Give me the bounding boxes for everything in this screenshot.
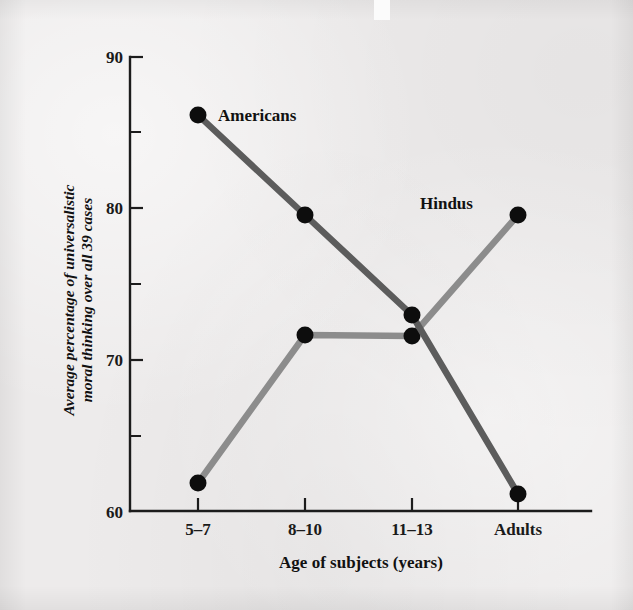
americans-point-8-10 bbox=[297, 207, 314, 224]
y-tick-label-70: 70 bbox=[106, 351, 123, 370]
hindus-point-8-10 bbox=[297, 327, 314, 344]
americans-point-11-13 bbox=[404, 307, 421, 324]
hindus-point-5-7 bbox=[190, 475, 207, 492]
figure-page: Average percentage of universalistic mor… bbox=[0, 0, 633, 610]
x-axis-title: Age of subjects (years) bbox=[279, 553, 443, 572]
chart-svg: Average percentage of universalistic mor… bbox=[0, 0, 633, 610]
americans-line bbox=[198, 115, 518, 494]
series-americans bbox=[190, 107, 527, 503]
x-axis-ticks bbox=[198, 498, 518, 511]
series-label-americans: Americans bbox=[218, 106, 297, 125]
hindus-point-adults bbox=[510, 207, 527, 224]
x-tick-label-11-13: 11–13 bbox=[391, 520, 433, 539]
y-tick-label-60: 60 bbox=[106, 503, 123, 522]
y-axis-title-line1: Average percentage of universalistic bbox=[60, 184, 77, 416]
y-tick-label-80: 80 bbox=[106, 199, 123, 218]
y-axis-ticks bbox=[130, 57, 143, 436]
americans-point-adults bbox=[510, 486, 527, 503]
y-axis-title-line2: moral thinking over all 39 cases bbox=[78, 198, 95, 403]
y-axis-title: Average percentage of universalistic mor… bbox=[60, 184, 95, 416]
hindus-line bbox=[198, 215, 518, 483]
series-label-hindus: Hindus bbox=[420, 194, 473, 213]
series-hindus bbox=[190, 207, 527, 492]
americans-point-5-7 bbox=[190, 107, 207, 124]
x-tick-label-5-7: 5–7 bbox=[185, 520, 211, 539]
y-axis-tick-labels: 90 80 70 60 bbox=[106, 48, 123, 522]
x-tick-label-8-10: 8–10 bbox=[288, 520, 322, 539]
line-chart-figure: Average percentage of universalistic mor… bbox=[0, 0, 633, 610]
y-tick-label-90: 90 bbox=[106, 48, 123, 67]
x-tick-label-adults: Adults bbox=[494, 520, 543, 539]
x-axis-tick-labels: 5–7 8–10 11–13 Adults bbox=[185, 520, 542, 539]
